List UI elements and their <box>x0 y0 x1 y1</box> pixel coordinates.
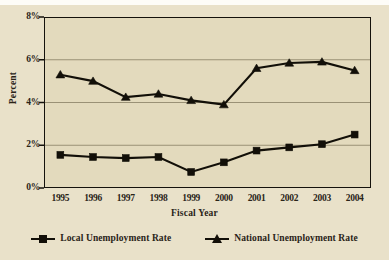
x-tick-label: 2004 <box>335 193 375 203</box>
legend-label-national: National Unemployment Rate <box>234 233 357 243</box>
y-tick-label: 0% <box>0 182 40 192</box>
y-tick-label: 6% <box>0 54 40 64</box>
legend-label-local: Local Unemployment Rate <box>60 233 171 243</box>
triangle-marker-icon <box>205 233 229 244</box>
y-tick-label: 2% <box>0 139 40 149</box>
x-axis-title: Fiscal Year <box>0 208 389 218</box>
square-marker-icon <box>31 233 55 244</box>
legend-item-national[interactable]: National Unemployment Rate <box>205 233 357 244</box>
chart-figure: Percent 0%2%4%6%8% 199519961997199819992… <box>0 5 389 260</box>
y-axis-title: Percent <box>8 58 18 118</box>
plot-area <box>44 17 371 188</box>
y-tick-label: 8% <box>0 11 40 21</box>
legend-item-local[interactable]: Local Unemployment Rate <box>31 233 171 244</box>
chart-legend: Local Unemployment Rate National Unemplo… <box>0 227 389 249</box>
y-tick-label: 4% <box>0 97 40 107</box>
